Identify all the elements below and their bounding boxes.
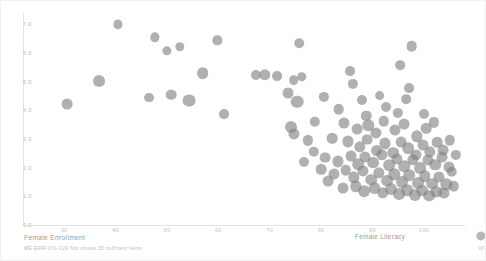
data-point[interactable] [213,36,222,45]
data-point[interactable] [399,119,410,130]
data-point[interactable] [62,99,73,110]
data-point[interactable] [327,133,338,144]
data-point[interactable] [144,93,154,103]
data-point[interactable] [448,181,459,192]
data-point[interactable] [357,95,367,105]
data-point[interactable] [381,102,391,112]
x-axis-line [23,225,465,226]
data-point[interactable] [406,41,417,52]
data-point[interactable] [272,71,282,81]
x-axis-tick: 30 [61,227,68,233]
data-point[interactable] [319,92,329,102]
data-point[interactable] [316,164,327,175]
data-point[interactable] [291,95,304,108]
data-point[interactable] [345,66,355,76]
chart-footnote: ME-ERR-VIG-029 Not shown 55 null/zero it… [24,245,142,251]
data-point[interactable] [446,167,456,177]
data-point[interactable] [337,183,348,194]
x-axis-tick: 80 [318,227,325,233]
data-point[interactable] [395,60,405,70]
data-point[interactable] [310,117,320,127]
x-axis-tick: 70 [266,227,273,233]
x-axis-tick: 60 [215,227,222,233]
x-axis-tick: 100 [419,227,429,233]
plot-frame [23,13,465,225]
data-point[interactable] [297,72,307,82]
data-point[interactable] [220,109,230,119]
data-point[interactable] [150,33,159,42]
data-point[interactable] [376,149,387,160]
data-point[interactable] [451,150,461,160]
data-point[interactable] [183,94,196,107]
data-point[interactable] [333,104,344,115]
legend-bubble [476,231,485,240]
plot-canvas[interactable] [24,13,466,225]
data-point[interactable] [166,89,177,100]
legend-title: Female Literacy [355,233,405,240]
legend-value: 30 [478,245,484,251]
data-point[interactable] [323,176,334,187]
data-point[interactable] [175,42,184,51]
data-point[interactable] [162,46,171,55]
data-point[interactable] [299,157,309,167]
data-point[interactable] [342,136,353,147]
data-point[interactable] [113,20,122,29]
data-point[interactable] [289,128,300,139]
data-point[interactable] [309,147,319,157]
data-point[interactable] [320,152,331,163]
data-point[interactable] [405,83,415,93]
data-point[interactable] [444,135,454,145]
data-point[interactable] [348,79,358,89]
x-axis-label: Female Enrollment [24,234,85,241]
data-point[interactable] [402,94,412,104]
data-point[interactable] [93,75,105,87]
x-axis-tick: 50 [164,227,171,233]
x-axis-tick: 40 [112,227,119,233]
data-point[interactable] [303,135,313,145]
data-point[interactable] [338,118,349,129]
scatter-plot-widget: 7.06.05.04.03.02.01.00.0 304050607080901… [0,0,486,261]
data-point[interactable] [295,38,305,48]
data-point[interactable] [429,117,439,127]
data-point[interactable] [393,108,403,118]
data-point[interactable] [378,116,389,127]
data-point[interactable] [375,91,385,101]
data-point[interactable] [197,67,209,79]
data-point[interactable] [362,134,373,145]
data-point[interactable] [352,124,363,135]
data-point[interactable] [419,109,429,119]
data-point[interactable] [259,69,270,80]
